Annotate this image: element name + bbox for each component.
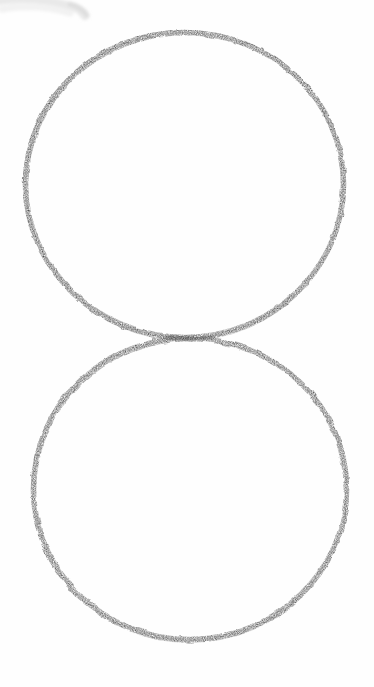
sketch-canvas: Hand-drawn sketch of two stacked circles (0, 0, 374, 687)
sketch-drawing-surface (0, 0, 374, 687)
